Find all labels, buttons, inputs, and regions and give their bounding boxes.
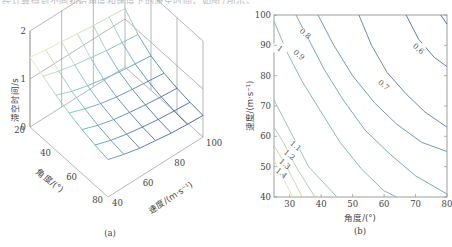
surface-mesh-line <box>104 79 117 97</box>
x-tick-label: 40 <box>112 198 123 208</box>
y-tick-label: 80 <box>260 71 271 81</box>
z-tick-label: 2 <box>21 26 26 36</box>
surface-mesh-line <box>145 105 158 120</box>
contour-lines: 1.41.31.21.110.90.80.70.6 <box>273 15 447 197</box>
surface-mesh-line <box>127 127 143 134</box>
surface-mesh-line <box>30 57 43 76</box>
surface-mesh-line <box>69 109 85 113</box>
x-tick-label: 70 <box>410 199 421 209</box>
surface-mesh-line <box>171 124 187 133</box>
surface-mesh-line <box>148 81 161 97</box>
surface-mesh-line <box>101 97 117 104</box>
contour-line <box>296 15 447 194</box>
surface-mesh-line <box>158 111 174 120</box>
y-axis-label: 角度/(°) <box>34 167 65 194</box>
contour-plot-panel: 1.41.31.21.110.90.80.70.6 30405060708040… <box>245 10 452 236</box>
contour-line <box>441 15 447 24</box>
surface-mesh-line <box>43 71 59 76</box>
surface-mesh-line <box>85 104 101 109</box>
surface-mesh-line <box>104 72 120 79</box>
surface-mesh-line <box>82 130 95 146</box>
surface-mesh-line <box>143 119 159 127</box>
surface-mesh-line <box>177 88 190 102</box>
surface-mesh-line <box>69 113 82 129</box>
surface-mesh-line <box>138 35 151 56</box>
surface-mesh-line <box>56 95 69 113</box>
surface-mesh-line <box>111 140 124 154</box>
surface-mesh-line <box>174 102 190 111</box>
x-tick-label: 80 <box>174 158 185 168</box>
surface-mesh-line <box>114 112 130 119</box>
surface-mesh-line <box>114 120 127 135</box>
surface-mesh-line <box>75 65 88 86</box>
surface-mesh-line <box>109 17 122 43</box>
wall-grid-line <box>125 19 203 89</box>
x-tick-label: 40 <box>316 199 327 209</box>
surface-mesh-line <box>91 58 104 79</box>
surface-mesh-line <box>135 64 148 81</box>
surface-mesh-line <box>151 56 164 73</box>
surface-mesh-line <box>85 109 98 125</box>
surface-mesh-line <box>101 104 114 120</box>
x-tick-label: 100 <box>206 138 222 148</box>
surface-mesh-line <box>156 133 172 141</box>
surface-mesh-line <box>117 89 133 97</box>
surface-mesh-line <box>93 17 109 26</box>
surface-mesh-line <box>95 145 108 160</box>
surface-mesh-line <box>106 43 122 51</box>
z-tick-label: 1 <box>21 74 26 84</box>
y-tick-label: 70 <box>260 101 271 111</box>
surface-mesh-line <box>130 105 146 113</box>
x-tick-label: 50 <box>347 199 358 209</box>
surface-mesh-line <box>62 42 75 65</box>
y-tick-label: 80 <box>92 195 103 205</box>
y-tick-label: 60 <box>66 172 77 182</box>
surface-mesh-line <box>46 42 62 50</box>
surface-mesh-line <box>132 89 145 105</box>
y-tick-label: 40 <box>260 192 271 202</box>
surface-mesh-line <box>56 91 72 95</box>
surface-mesh-line <box>78 34 91 58</box>
surface-mesh-line <box>78 26 94 34</box>
top-edge <box>30 0 125 31</box>
x-tick-label: 80 <box>442 199 452 209</box>
contour-line <box>406 15 447 67</box>
surface-mesh-line <box>119 72 132 89</box>
surface-mesh-line <box>119 64 135 72</box>
contour-y-axis-label: 速度/(m·s⁻¹) <box>245 81 255 132</box>
panel-label-b: (b) <box>354 226 366 236</box>
surface-mesh-line <box>127 134 140 148</box>
surface-mesh-line <box>158 119 171 133</box>
surface-mesh-line <box>125 8 138 34</box>
surface-mesh-line <box>124 148 140 154</box>
x-tick-label: 60 <box>143 178 154 188</box>
surface-mesh-line <box>143 127 156 141</box>
y-tick-label: 100 <box>255 10 271 20</box>
surface-mesh-line <box>117 97 130 113</box>
figure: 01220406080406080100 滞空时间/s 角度/(°) 速度/(m… <box>0 0 452 247</box>
surface-mesh-line <box>62 34 78 42</box>
surface-mesh-line <box>109 8 125 17</box>
surface-mesh-line <box>98 125 111 140</box>
surface-mesh-line <box>43 76 56 95</box>
surface-mesh-line <box>164 73 177 88</box>
contour-x-axis-label: 角度/(°) <box>344 213 376 223</box>
surface-mesh-line <box>88 86 101 104</box>
surface-mesh-line <box>161 97 174 111</box>
surface-mesh-line <box>135 56 151 64</box>
surface-mesh-line <box>130 112 143 127</box>
surface-mesh-line <box>122 35 138 43</box>
surface-mesh-line <box>145 97 161 105</box>
surface-mesh-line <box>95 140 111 145</box>
surface-mesh-line <box>187 115 203 124</box>
surface-mesh-line <box>59 65 75 71</box>
x-axis-label: 速度/(m·s⁻¹) <box>146 179 194 215</box>
surface-mesh-line <box>111 134 127 140</box>
z-axis-label: 滞空时间/s <box>10 78 20 122</box>
surface-mesh-line <box>140 141 156 149</box>
surface-mesh-line <box>148 73 164 81</box>
y-tick-label: 20 <box>14 125 25 135</box>
surface-mesh-line <box>72 86 88 92</box>
surface-mesh-line <box>82 125 98 129</box>
surface-mesh-line <box>59 71 72 91</box>
